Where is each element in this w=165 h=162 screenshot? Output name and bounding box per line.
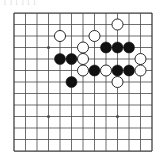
white-stone[interactable] <box>112 19 123 30</box>
black-stone[interactable] <box>112 65 123 76</box>
go-diagram-page: [ ] [ ] [ ] <box>0 0 165 162</box>
white-stone[interactable] <box>77 42 88 53</box>
white-stone[interactable] <box>100 65 111 76</box>
black-stone[interactable] <box>66 76 77 87</box>
white-stone[interactable] <box>77 53 88 64</box>
black-stone[interactable] <box>100 42 111 53</box>
white-stone[interactable] <box>112 76 123 87</box>
black-stone[interactable] <box>123 42 134 53</box>
black-stone[interactable] <box>123 65 134 76</box>
white-stone[interactable] <box>135 65 146 76</box>
white-stone[interactable] <box>135 53 146 64</box>
white-stone[interactable] <box>89 30 100 41</box>
star-point <box>116 115 119 118</box>
diagram-caption: [ ] [ ] [ ] <box>4 0 64 5</box>
go-board[interactable] <box>8 7 158 157</box>
star-point <box>47 46 50 49</box>
black-stone[interactable] <box>112 42 123 53</box>
go-board-canvas[interactable] <box>8 7 158 157</box>
star-point <box>47 115 50 118</box>
white-stone[interactable] <box>77 65 88 76</box>
black-stone[interactable] <box>66 53 77 64</box>
white-stone[interactable] <box>54 30 65 41</box>
black-stone[interactable] <box>54 53 65 64</box>
black-stone[interactable] <box>89 65 100 76</box>
